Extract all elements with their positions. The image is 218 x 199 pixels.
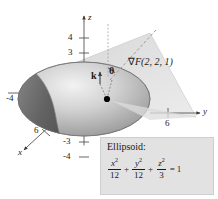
gradient-label-text: F(2, 2, 1) [135,56,173,67]
equation-box: Ellipsoid: x2 12 + y2 12 + z2 3 = 1 [100,137,214,195]
term-x-exp: 2 [115,157,118,163]
x-axis-label: x [18,148,22,157]
equation-title: Ellipsoid: [107,141,146,152]
term-z-den: 3 [157,169,166,180]
term-z: z2 3 [156,157,167,180]
tangency-point [104,96,110,102]
z-tick-neg-4: -4 [63,152,71,161]
term-x-den: 12 [108,169,121,180]
x-tick-6: 6 [34,126,39,135]
gradient-label: ∇F(2, 2, 1) [128,57,173,67]
x-tick-neg-4: -4 [6,94,14,103]
term-x: x2 12 [108,157,121,180]
term-y-den: 12 [132,169,145,180]
equals-sign: = [170,164,175,174]
nabla-icon: ∇ [128,56,135,67]
y-axis-label: y [203,107,207,116]
z-axis-label: z [88,13,92,22]
theta-angle-label: θ [109,66,114,76]
z-tick-neg-3: -3 [63,137,71,146]
term-y: y2 12 [132,157,145,180]
z-tick-3: 3 [68,48,73,57]
unit-vector-k-label: k [91,71,97,81]
y-tick-6: 6 [165,119,170,128]
term-y-exp: 2 [139,157,142,163]
equation-result: 1 [177,164,182,174]
plus-1: + [124,164,129,174]
plus-2: + [148,164,153,174]
equation-row: x2 12 + y2 12 + z2 3 = 1 [107,157,181,180]
term-z-exp: 2 [162,157,165,163]
z-tick-4: 4 [68,33,73,42]
